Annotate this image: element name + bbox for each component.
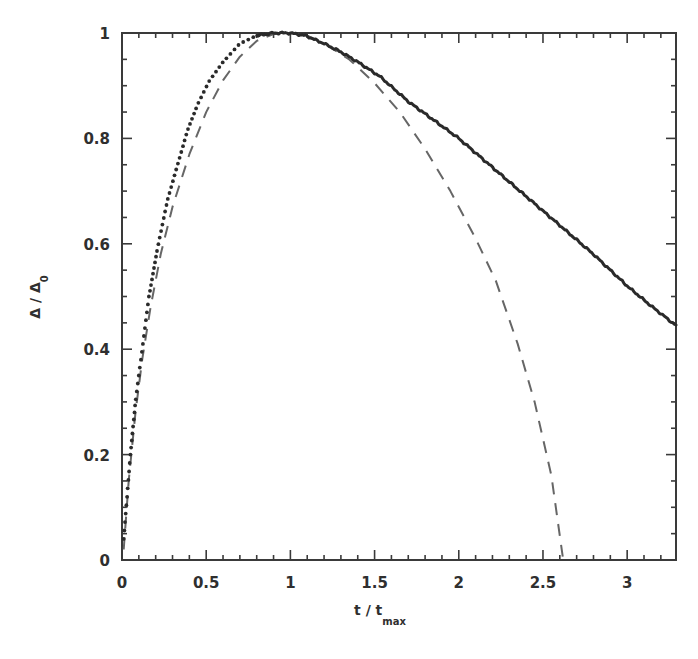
y-tick-label: 1 [100,25,110,43]
x-tick-label: 1.5 [361,574,388,592]
x-tick-label: 1 [285,574,295,592]
x-tick-label: 2.5 [530,574,557,592]
y-axis-label: Δ / Δ0 [27,275,50,319]
series-measured-dots [122,32,676,541]
axis-ticks [122,33,676,560]
chart: 00.511.522.53 00.20.40.60.81 t / tmax Δ … [0,0,698,659]
y-tick-labels: 00.20.40.60.81 [83,25,110,570]
y-tick-label: 0 [100,552,110,570]
y-tick-label: 0.2 [83,447,110,465]
x-tick-labels: 00.511.522.53 [117,574,633,592]
series-fit-dashed [124,33,564,560]
x-tick-label: 0.5 [193,574,220,592]
y-tick-label: 0.8 [83,130,110,148]
x-tick-label: 3 [622,574,632,592]
y-tick-label: 0.6 [83,236,110,254]
y-tick-label: 0.4 [83,341,110,359]
x-axis-label: t / tmax [354,602,406,627]
plot-frame [122,33,676,560]
x-tick-label: 2 [454,574,464,592]
x-tick-label: 0 [117,574,127,592]
